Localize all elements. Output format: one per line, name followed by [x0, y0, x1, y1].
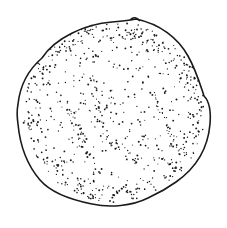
stipple-dots — [23, 23, 204, 203]
disc-outline — [17, 19, 210, 206]
stippled-disc-drawing — [0, 0, 227, 228]
stipple-illustration — [0, 0, 227, 228]
